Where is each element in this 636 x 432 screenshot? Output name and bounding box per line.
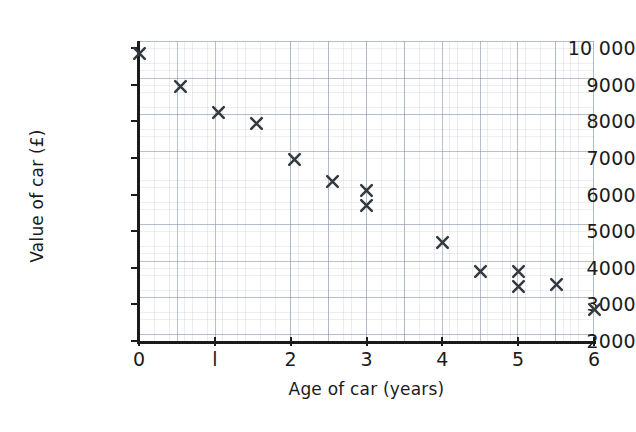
data-point-marker bbox=[510, 278, 527, 295]
y-axis-tick-label: 5000 bbox=[512, 222, 636, 241]
y-axis-tick bbox=[131, 120, 140, 122]
data-point-marker bbox=[210, 104, 227, 121]
x-axis-tick bbox=[441, 337, 443, 346]
y-axis-tick bbox=[131, 157, 140, 159]
y-axis-tick-label: 7000 bbox=[512, 149, 636, 168]
y-axis-tick bbox=[131, 230, 140, 232]
data-point-marker bbox=[548, 276, 565, 293]
x-axis-tick bbox=[138, 337, 140, 346]
data-point-marker bbox=[586, 301, 603, 318]
data-point-marker bbox=[286, 151, 303, 168]
data-point-marker bbox=[172, 78, 189, 95]
data-point-marker bbox=[434, 234, 451, 251]
data-point-marker bbox=[358, 197, 375, 214]
data-point-marker bbox=[324, 173, 341, 190]
y-axis-title: Value of car (£) bbox=[27, 96, 47, 296]
x-axis-tick bbox=[366, 337, 368, 346]
x-axis-tick-label: 3 bbox=[347, 350, 387, 369]
y-axis-tick-label: 3000 bbox=[512, 295, 636, 314]
y-axis-tick-label: 6000 bbox=[512, 186, 636, 205]
y-axis-line bbox=[137, 41, 140, 344]
y-axis-tick bbox=[131, 194, 140, 196]
data-point-marker bbox=[131, 45, 148, 62]
x-axis-tick-label: 5 bbox=[498, 350, 538, 369]
y-axis-tick-label: 10 000 bbox=[512, 39, 636, 58]
y-axis-tick-label: 2000 bbox=[512, 332, 636, 351]
x-axis-title: Age of car (years) bbox=[139, 379, 594, 399]
y-axis-tick-label: 8000 bbox=[512, 112, 636, 131]
x-axis-tick-label: 6 bbox=[574, 350, 614, 369]
x-axis-tick-label: 2 bbox=[271, 350, 311, 369]
x-axis-tick bbox=[290, 337, 292, 346]
scatter-chart: 10 00090008000700060005000400030002000 0… bbox=[0, 0, 636, 432]
y-axis-tick bbox=[131, 303, 140, 305]
y-axis-tick bbox=[131, 84, 140, 86]
data-point-marker bbox=[248, 115, 265, 132]
x-axis-tick-label: l bbox=[195, 350, 235, 369]
y-axis-tick-label: 9000 bbox=[512, 76, 636, 95]
x-axis-tick bbox=[214, 337, 216, 346]
x-axis-tick-label: 0 bbox=[119, 350, 159, 369]
x-axis-tick-label: 4 bbox=[422, 350, 462, 369]
data-point-marker bbox=[472, 263, 489, 280]
y-axis-tick bbox=[131, 267, 140, 269]
y-axis-tick-label: 4000 bbox=[512, 259, 636, 278]
